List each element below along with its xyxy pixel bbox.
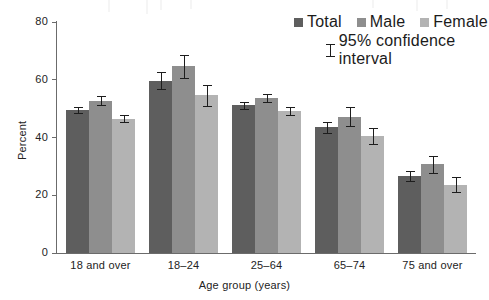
legend-label-male: Male xyxy=(370,13,405,31)
error-bar-male xyxy=(433,156,434,173)
error-bar-male xyxy=(267,94,268,102)
y-axis-tick xyxy=(52,253,57,254)
y-axis-tick xyxy=(52,137,57,138)
x-axis-line xyxy=(56,253,476,254)
error-bar-cap xyxy=(452,192,461,193)
legend-series: Total Male Female xyxy=(294,13,488,31)
bar-female xyxy=(278,111,301,253)
bar-male xyxy=(172,66,195,253)
error-bar-cap xyxy=(157,89,166,90)
error-bar-cap xyxy=(346,107,355,108)
error-bar-cap xyxy=(240,102,249,103)
error-bar-female xyxy=(373,128,374,144)
legend-label-female: Female xyxy=(433,13,488,31)
error-bar-male xyxy=(350,107,351,126)
error-bar-cap xyxy=(369,128,378,129)
scan-artifact xyxy=(108,0,110,12)
error-bar-total xyxy=(244,102,245,109)
error-bar-cap xyxy=(263,102,272,103)
y-axis-tick-label: 80 xyxy=(22,16,48,27)
y-axis-tick-label: 60 xyxy=(22,74,48,85)
error-bar-cap xyxy=(240,109,249,110)
bar-total xyxy=(66,110,89,253)
error-bar-cap xyxy=(369,144,378,145)
y-axis-label: Percent xyxy=(16,121,28,160)
error-bar-icon xyxy=(326,44,334,57)
error-bar-female xyxy=(124,115,125,123)
legend-swatch-male-icon xyxy=(357,18,366,27)
legend-swatch-female-icon xyxy=(420,18,429,27)
error-bar-male xyxy=(184,55,185,79)
error-bar-cap xyxy=(286,115,295,116)
error-bar-cap xyxy=(97,96,106,97)
bar-total xyxy=(315,127,338,253)
legend-confidence-interval: 95% confidence interval xyxy=(326,32,489,68)
y-axis-tick xyxy=(52,79,57,80)
error-bar-cap xyxy=(406,171,415,172)
bar-total xyxy=(232,105,255,253)
bar-female xyxy=(361,136,384,253)
error-bar-cap xyxy=(74,107,83,108)
bar-male xyxy=(338,117,361,253)
error-bar-cap xyxy=(180,78,189,79)
error-bar-female xyxy=(456,177,457,192)
bar-male xyxy=(89,101,112,253)
bar-male xyxy=(421,164,444,253)
scan-artifact xyxy=(372,0,374,8)
error-bar-female xyxy=(290,107,291,115)
error-bar-cap xyxy=(429,156,438,157)
legend-label-total: Total xyxy=(307,13,342,31)
error-bar-cap xyxy=(97,105,106,106)
error-bar-cap xyxy=(157,72,166,73)
y-axis-tick xyxy=(52,195,57,196)
scan-artifact xyxy=(416,0,418,11)
error-bar-cap xyxy=(120,122,129,123)
bar-chart: 020406080 Percent 18 and over18–2425–646… xyxy=(0,0,489,300)
bar-male xyxy=(255,98,278,253)
error-bar-cap xyxy=(263,94,272,95)
error-bar-cap xyxy=(406,181,415,182)
error-bar-cap xyxy=(120,115,129,116)
scan-artifact xyxy=(190,0,192,9)
legend-label-ci: 95% confidence interval xyxy=(339,32,489,68)
error-bar-female xyxy=(207,85,208,106)
error-bar-cap xyxy=(203,106,212,107)
error-bar-cap xyxy=(323,133,332,134)
bar-total xyxy=(149,81,172,253)
y-axis-tick xyxy=(52,22,57,23)
y-axis-tick-label: 0 xyxy=(22,247,48,258)
error-bar-cap xyxy=(74,113,83,114)
error-bar-cap xyxy=(286,107,295,108)
legend-swatch-total-icon xyxy=(294,18,303,27)
error-bar-cap xyxy=(323,122,332,123)
scan-artifact xyxy=(146,0,148,14)
bar-female xyxy=(195,95,218,253)
error-bar-cap xyxy=(346,126,355,127)
scan-artifact xyxy=(160,0,162,10)
error-bar-male xyxy=(101,96,102,104)
error-bar-total xyxy=(161,72,162,89)
error-bar-total xyxy=(410,171,411,181)
error-bar-cap xyxy=(180,55,189,56)
x-axis-label: Age group (years) xyxy=(0,279,489,291)
error-bar-cap xyxy=(203,85,212,86)
x-axis-tick-label: 75 and over xyxy=(383,259,483,271)
scan-artifact xyxy=(446,0,448,9)
y-axis-tick-label: 20 xyxy=(22,189,48,200)
error-bar-cap xyxy=(452,177,461,178)
error-bar-total xyxy=(327,122,328,134)
bar-total xyxy=(398,176,421,253)
error-bar-cap xyxy=(429,173,438,174)
bar-female xyxy=(444,185,467,253)
bar-female xyxy=(112,119,135,253)
